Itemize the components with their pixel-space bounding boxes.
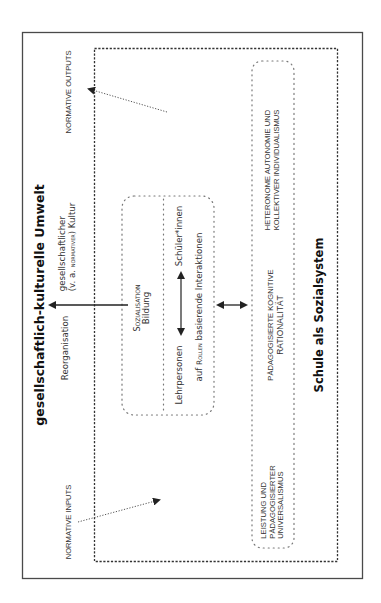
culture-line-2-smallcaps: normativer xyxy=(68,234,77,267)
value-middle-line-2: Rationalität xyxy=(276,269,286,380)
culture-label: gesellschaftlicher (v. a. normativer) Ku… xyxy=(58,203,78,292)
school-system-boundary xyxy=(95,49,338,562)
interaction-smallcaps: Rollen xyxy=(195,343,204,365)
interaction-suffix: basierende Interaktionen xyxy=(194,233,204,344)
value-cognitive-rationality: pädagogisierte kognitive Rationalität xyxy=(267,269,285,380)
culture-line-2-prefix: (v. a. xyxy=(67,267,77,291)
normative-outputs-arrow xyxy=(89,89,167,112)
students-label: Schüler*innen xyxy=(175,206,185,267)
school-system-title: Schule als Sozialsystem xyxy=(313,238,326,393)
culture-line-2-suffix: ) Kultur xyxy=(67,203,77,234)
value-left-line-3: Universalismus xyxy=(277,465,286,538)
bildung-label: Bildung xyxy=(143,284,153,331)
normative-outputs-label: Normative Outputs xyxy=(65,51,74,134)
normative-inputs-arrow xyxy=(78,500,159,522)
socialisation-education-label: Sozialisation Bildung xyxy=(133,284,152,331)
diagram-canvas: gesellschaftlich-kulturelle Umwelt Norma… xyxy=(0,0,381,603)
value-right-line-2: kollektiver Individualismus xyxy=(273,110,282,231)
value-heteronomous-autonomy: heteronome Autonomie und kollektiver Ind… xyxy=(264,110,281,231)
value-achievement-universalism: Leistung und pädagogisierter Universalis… xyxy=(260,465,286,538)
reorganisation-label: Reorganisation xyxy=(61,316,71,380)
culture-line-2: (v. a. normativer) Kultur xyxy=(68,203,78,292)
normative-inputs-label: Normative Inputs xyxy=(65,485,74,560)
teachers-label: Lehrpersonen xyxy=(175,345,185,404)
interaction-prefix: auf xyxy=(194,365,204,381)
role-interactions-label: auf Rollen basierende Interaktionen xyxy=(195,233,205,382)
environment-title: gesellschaftlich-kulturelle Umwelt xyxy=(33,184,47,425)
